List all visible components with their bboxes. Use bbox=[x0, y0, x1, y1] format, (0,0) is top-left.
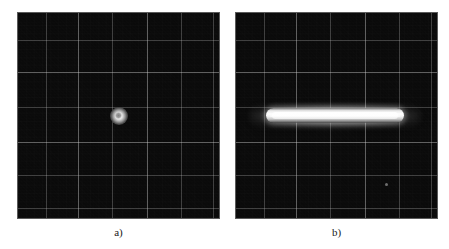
grid-line-horizontal bbox=[18, 40, 219, 41]
grid-line-horizontal bbox=[18, 72, 219, 73]
elongated-bar-core bbox=[272, 112, 398, 119]
grid-line-horizontal bbox=[236, 40, 437, 41]
grid-line-horizontal bbox=[236, 208, 437, 209]
panel-b bbox=[235, 12, 438, 219]
grid-line-horizontal bbox=[18, 142, 219, 143]
grid-line-vertical bbox=[213, 13, 214, 218]
panel-a-caption: a) bbox=[17, 226, 220, 239]
grid-line-horizontal bbox=[18, 175, 219, 176]
stray-speck bbox=[385, 183, 388, 186]
grid-line-horizontal bbox=[236, 175, 437, 176]
grid-line-vertical bbox=[147, 13, 148, 218]
grid-line-vertical bbox=[78, 13, 79, 218]
grid-line-horizontal bbox=[18, 208, 219, 209]
panel-a-image bbox=[17, 12, 220, 219]
grid-line-vertical bbox=[46, 13, 47, 218]
panel-a bbox=[17, 12, 220, 219]
grid-line-vertical bbox=[431, 13, 432, 218]
panel-b-image bbox=[235, 12, 438, 219]
point-spread-spot bbox=[110, 107, 128, 125]
grid-line-horizontal bbox=[236, 142, 437, 143]
figure-root: a) bbox=[0, 0, 449, 249]
panel-b-caption: b) bbox=[235, 226, 438, 239]
grid-line-horizontal bbox=[236, 72, 437, 73]
grid-line-vertical bbox=[181, 13, 182, 218]
